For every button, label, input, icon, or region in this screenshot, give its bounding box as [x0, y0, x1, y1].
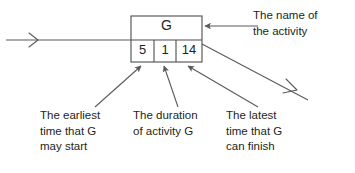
annotation-duration: The duration of activity G [133, 108, 228, 139]
leader-line-latest [188, 66, 258, 107]
incoming-flow-arrow [6, 33, 131, 47]
activity-node-box [131, 16, 202, 62]
leader-line-duration [164, 66, 178, 107]
annotation-latest-finish: The latest time that G can finish [226, 108, 316, 155]
outgoing-flow-arrow [202, 44, 308, 100]
annotation-activity-name: The name of the activity [253, 8, 353, 39]
activity-node-diagram: G 5 1 14 The name of the activity The ea… [0, 0, 355, 173]
annotation-earliest-start: The earliest time that G may start [40, 108, 135, 155]
leader-line-earliest [95, 66, 141, 107]
